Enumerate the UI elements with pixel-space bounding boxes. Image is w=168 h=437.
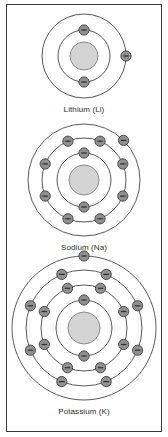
- electron: [119, 339, 129, 349]
- electron-minus-icon: [81, 299, 86, 300]
- atom-label-lithium: Lithium (Li): [0, 105, 168, 115]
- electron: [39, 339, 49, 349]
- electron: [95, 136, 105, 146]
- atom-svg-lithium: [36, 8, 132, 104]
- electron: [57, 376, 67, 386]
- electron: [101, 376, 111, 386]
- electron-minus-icon: [97, 218, 102, 219]
- nucleus: [68, 312, 100, 344]
- electron-minus-icon: [81, 152, 86, 153]
- electron: [79, 251, 89, 261]
- electron: [95, 214, 105, 224]
- electron-minus-icon: [65, 141, 70, 142]
- figure-page: Lithium (Li) Sodium (Na) Potassium (K): [0, 0, 168, 437]
- electron: [79, 202, 89, 212]
- electron-minus-icon: [81, 355, 86, 356]
- electron: [79, 77, 89, 87]
- electron: [118, 191, 128, 201]
- atom-diagram-lithium: Lithium (Li): [0, 8, 168, 115]
- electron: [79, 25, 89, 35]
- electron-minus-icon: [81, 255, 86, 256]
- electron-minus-icon: [81, 206, 86, 207]
- electron-minus-icon: [121, 140, 126, 141]
- electron: [132, 301, 142, 311]
- electron: [25, 301, 35, 311]
- electron: [118, 159, 128, 169]
- electron-minus-icon: [59, 381, 64, 382]
- electron-minus-icon: [65, 367, 70, 368]
- electron-minus-icon: [43, 195, 48, 196]
- electron-minus-icon: [97, 141, 102, 142]
- electron-minus-icon: [120, 195, 125, 196]
- electron-minus-icon: [121, 344, 126, 345]
- electron-minus-icon: [98, 288, 103, 289]
- electron: [39, 306, 49, 316]
- electron: [62, 283, 72, 293]
- electron: [119, 135, 129, 145]
- electron: [62, 363, 72, 373]
- electron-minus-icon: [98, 367, 103, 368]
- electron: [79, 295, 89, 305]
- electron-minus-icon: [65, 218, 70, 219]
- electron-minus-icon: [28, 305, 33, 306]
- electron-minus-icon: [59, 274, 64, 275]
- electron-minus-icon: [81, 81, 86, 82]
- atom-canvas-potassium: [0, 250, 168, 406]
- electron-minus-icon: [28, 350, 33, 351]
- electron-minus-icon: [43, 163, 48, 164]
- electron: [132, 345, 142, 355]
- atom-canvas-sodium: [0, 118, 168, 242]
- electron: [40, 159, 50, 169]
- electron-minus-icon: [81, 29, 86, 30]
- electron-minus-icon: [65, 288, 70, 289]
- electron-minus-icon: [42, 311, 47, 312]
- electron-minus-icon: [121, 311, 126, 312]
- electron-minus-icon: [135, 305, 140, 306]
- electron: [79, 351, 89, 361]
- atom-diagram-sodium: Sodium (Na): [0, 118, 168, 253]
- electron: [95, 283, 105, 293]
- atom-svg-sodium: [22, 118, 146, 242]
- atom-svg-potassium: [6, 250, 162, 406]
- electron: [119, 306, 129, 316]
- electron: [101, 269, 111, 279]
- electron: [25, 345, 35, 355]
- electron: [57, 269, 67, 279]
- electron-minus-icon: [135, 350, 140, 351]
- electron-minus-icon: [104, 274, 109, 275]
- electron-minus-icon: [123, 55, 128, 56]
- electron-minus-icon: [42, 344, 47, 345]
- electron: [79, 148, 89, 158]
- electron-minus-icon: [120, 163, 125, 164]
- nucleus: [69, 165, 99, 195]
- electron-minus-icon: [104, 381, 109, 382]
- atom-canvas-lithium: [0, 8, 168, 104]
- atom-diagram-potassium: Potassium (K): [0, 250, 168, 417]
- electron: [63, 214, 73, 224]
- electron: [40, 191, 50, 201]
- atom-label-potassium: Potassium (K): [0, 407, 168, 417]
- electron: [121, 51, 131, 61]
- electron: [95, 363, 105, 373]
- electron: [63, 136, 73, 146]
- nucleus: [70, 42, 98, 70]
